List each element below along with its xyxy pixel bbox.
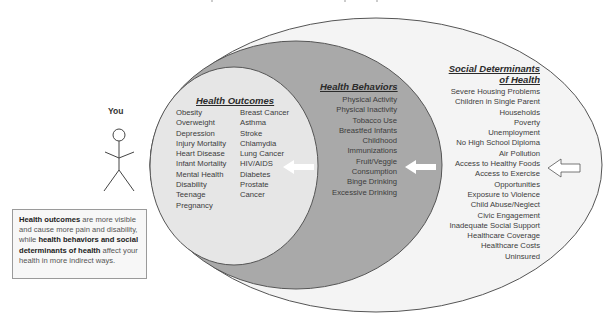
list-item: Unemployment xyxy=(430,128,540,138)
list-item: Obesity xyxy=(176,108,226,118)
list-item: Disability xyxy=(176,180,226,190)
list-item: Access to Healthy Foods xyxy=(430,159,540,169)
stick-figure-icon xyxy=(104,129,134,191)
list-item: HIV/AIDS xyxy=(240,159,289,169)
list-item: Prostate xyxy=(240,180,289,190)
list-item: Asthma xyxy=(240,118,289,128)
list-item: Households xyxy=(430,108,540,118)
list-item: Physical Inactivity xyxy=(300,105,397,115)
list-item: Chlamydia xyxy=(240,139,289,149)
list-item: Consumption xyxy=(300,167,397,177)
list-item: Physical Activity xyxy=(300,95,397,105)
list-item: Uninsured xyxy=(430,252,540,262)
list-item: Mental Health xyxy=(176,170,226,180)
list-item: Immunizations xyxy=(300,146,397,156)
list-item: Opportunities xyxy=(430,180,540,190)
health-outcomes-title: Health Outcomes xyxy=(196,95,274,106)
list-item: Heart Disease xyxy=(176,149,226,159)
health-behaviors-title: Health Behaviors xyxy=(320,81,397,92)
list-item: Childhood xyxy=(300,136,397,146)
list-item: Severe Housing Problems xyxy=(430,87,540,97)
list-item: Tobacco Use xyxy=(300,116,397,126)
list-item: Injury Mortality xyxy=(176,139,226,149)
list-item: Air Pollution xyxy=(430,149,540,159)
list-item: Overweight xyxy=(176,118,226,128)
list-item: Healthcare Coverage xyxy=(430,231,540,241)
list-item: Diabetes xyxy=(240,170,289,180)
list-item: Cancer xyxy=(240,190,289,200)
health-factors-diagram: You Health outcomes are more visible and… xyxy=(0,0,612,323)
list-item: Children in Single Parent xyxy=(430,97,540,107)
list-item: No High School Diploma xyxy=(430,138,540,148)
you-label: You xyxy=(108,106,123,116)
list-item: Poverty xyxy=(430,118,540,128)
list-item: Access to Exercise xyxy=(430,169,540,179)
list-item: Infant Mortality xyxy=(176,159,226,169)
list-item: Civic Engagement xyxy=(430,211,540,221)
social-determinants-title-line2: of Health xyxy=(440,74,540,85)
social-determinants-list: Severe Housing Problems Children in Sing… xyxy=(430,87,540,262)
list-item: Inadequate Social Support xyxy=(430,221,540,231)
list-item: Healthcare Costs xyxy=(430,241,540,251)
health-outcomes-right-list: Breast Cancer Asthma Stroke Chlamydia Lu… xyxy=(240,108,289,201)
explanation-note: Health outcomes are more visible and cau… xyxy=(12,209,147,279)
health-behaviors-list: Physical Activity Physical Inactivity To… xyxy=(300,95,397,198)
list-item: Fruit/Veggie xyxy=(300,157,397,167)
list-item: Stroke xyxy=(240,129,289,139)
list-item: Depression xyxy=(176,129,226,139)
list-item: Lung Cancer xyxy=(240,149,289,159)
list-item: Teenage xyxy=(176,190,226,200)
list-item: Breast Cancer xyxy=(240,108,289,118)
list-item: Excessive Drinking xyxy=(300,188,397,198)
list-item: Child Abuse/Neglect xyxy=(430,200,540,210)
list-item: Breastfed Infants xyxy=(300,126,397,136)
social-determinants-title-line1: Social Determinants xyxy=(440,63,540,74)
note-part-1: Health outcomes xyxy=(19,215,80,224)
health-outcomes-left-list: Obesity Overweight Depression Injury Mor… xyxy=(176,108,226,211)
list-item: Pregnancy xyxy=(176,201,226,211)
list-item: Exposure to Violence xyxy=(430,190,540,200)
list-item: Binge Drinking xyxy=(300,177,397,187)
